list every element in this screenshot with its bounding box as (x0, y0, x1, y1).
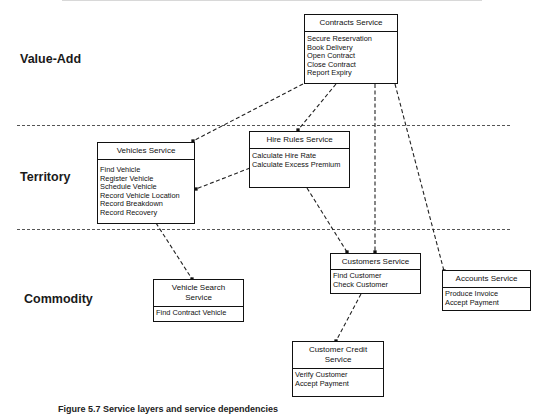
service-operations: Produce Invoice Accept Payment (443, 288, 530, 307)
service-operations: Find Customer Check Customer (331, 270, 420, 289)
service-title-line: Service (325, 355, 352, 365)
service-operations: Verify Customer Accept Payment (293, 369, 383, 388)
service-box-customer-credit[interactable]: Customer Credit Service Verify Customer … (292, 341, 384, 397)
operation: Calculate Excess Premium (252, 161, 349, 170)
figure-caption: Figure 5.7 Service layers and service de… (58, 404, 278, 414)
operation: Check Customer (333, 281, 420, 290)
service-title: Customer Credit Service (293, 342, 383, 369)
service-box-accounts[interactable]: Accounts Service Produce Invoice Accept … (442, 270, 531, 311)
service-operations: Find Contract Vehicle (154, 307, 243, 318)
service-box-hire-rules[interactable]: Hire Rules Service Calculate Hire Rate C… (249, 131, 350, 188)
arrow-customers-to-customer-credit (336, 294, 361, 341)
arrow-hire-rules-to-customers (307, 188, 347, 252)
service-operations: Calculate Hire Rate Calculate Excess Pre… (250, 149, 349, 169)
service-title: Vehicles Service (98, 143, 194, 160)
operation: Accept Payment (295, 380, 383, 389)
service-operations: Find Vehicle Register Vehicle Schedule V… (98, 160, 194, 218)
service-title-line: Vehicle Search (172, 283, 225, 293)
service-box-customers[interactable]: Customers Service Find Customer Check Cu… (330, 253, 421, 294)
service-title: Hire Rules Service (250, 132, 349, 149)
operation: Accept Payment (445, 299, 530, 308)
service-title: Vehicle Search Service (154, 280, 243, 307)
service-title: Customers Service (331, 254, 420, 270)
arrow-vehicles-to-vehicle-search (156, 223, 192, 279)
service-operations: Secure Reservation Book Delivery Open Co… (305, 32, 397, 78)
arrow-contracts-to-accounts (395, 84, 444, 271)
service-box-vehicle-search[interactable]: Vehicle Search Service Find Contract Veh… (153, 279, 244, 322)
service-title-line: Service (185, 293, 212, 303)
service-title-line: Customer Credit (309, 345, 367, 355)
arrow-hire-rules-to-vehicles (196, 168, 250, 189)
service-box-vehicles[interactable]: Vehicles Service Find Vehicle Register V… (97, 142, 195, 224)
operation: Find Contract Vehicle (156, 309, 243, 318)
service-title: Accounts Service (443, 271, 530, 288)
arrow-contracts-to-hire-rules (298, 84, 336, 130)
service-box-contracts[interactable]: Contracts Service Secure Reservation Boo… (304, 14, 398, 84)
operation: Record Recovery (100, 209, 194, 218)
service-title: Contracts Service (305, 15, 397, 32)
operation: Report Expiry (307, 69, 397, 78)
